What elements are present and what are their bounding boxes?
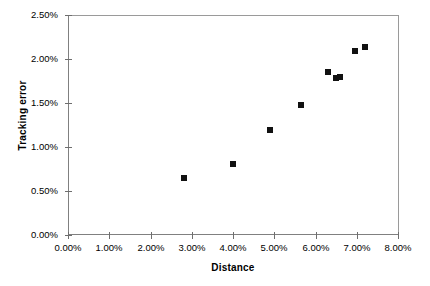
data-point xyxy=(267,127,273,133)
y-tick-label: 2.00% xyxy=(6,54,58,64)
y-tick-mark xyxy=(65,191,72,192)
data-point xyxy=(337,74,343,80)
data-point xyxy=(325,69,331,75)
plot-frame-right xyxy=(398,15,399,236)
plot-frame-top xyxy=(68,15,399,16)
x-tick-mark xyxy=(357,232,358,239)
scatter-chart: 0.00%0.50%1.00%1.50%2.00%2.50% 0.00%1.00… xyxy=(0,0,430,286)
plot-area xyxy=(68,15,398,235)
data-point xyxy=(230,161,236,167)
y-tick-label: 0.00% xyxy=(6,230,58,240)
y-tick-mark xyxy=(65,103,72,104)
x-tick-mark xyxy=(109,232,110,239)
y-tick-mark xyxy=(65,59,72,60)
data-point xyxy=(181,175,187,181)
data-point xyxy=(362,44,368,50)
y-tick-label: 0.50% xyxy=(6,186,58,196)
y-tick-mark xyxy=(65,147,72,148)
y-tick-label: 1.00% xyxy=(6,142,58,152)
y-tick-mark xyxy=(65,15,72,16)
x-tick-mark xyxy=(233,232,234,239)
y-tick-label: 2.50% xyxy=(6,10,58,20)
x-tick-mark xyxy=(316,232,317,239)
y-tick-label: 1.50% xyxy=(6,98,58,108)
x-tick-mark xyxy=(68,232,69,239)
x-axis-title: Distance xyxy=(68,262,398,273)
x-tick-mark xyxy=(398,232,399,239)
y-axis-title: Tracking error xyxy=(17,56,28,176)
x-tick-mark xyxy=(274,232,275,239)
data-point xyxy=(298,102,304,108)
x-tick-mark xyxy=(192,232,193,239)
x-tick-label: 8.00% xyxy=(370,243,426,253)
data-point xyxy=(352,48,358,54)
x-tick-mark xyxy=(151,232,152,239)
